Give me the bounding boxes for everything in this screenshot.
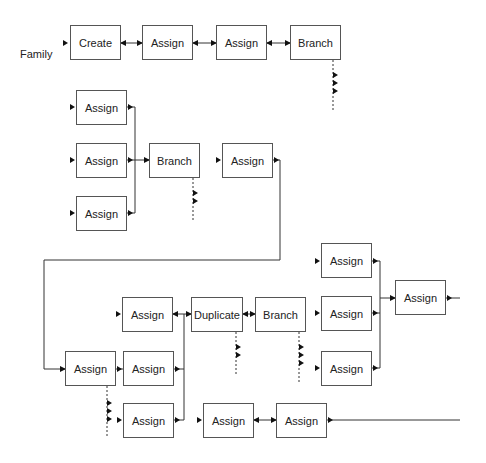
node-assign[interactable]: Assign (76, 143, 127, 178)
node-assign[interactable]: Assign (203, 403, 254, 438)
node-assign[interactable]: Assign (123, 403, 174, 438)
node-duplicate[interactable]: Duplicate (191, 297, 243, 332)
node-assign[interactable]: Assign (216, 25, 267, 60)
node-branch[interactable]: Branch (290, 25, 341, 60)
connector-lines (0, 0, 486, 463)
node-create[interactable]: Create (70, 25, 121, 60)
node-assign[interactable]: Assign (395, 280, 446, 315)
node-branch[interactable]: Branch (255, 297, 306, 332)
node-assign[interactable]: Assign (76, 90, 127, 125)
node-assign[interactable]: Assign (65, 351, 116, 386)
node-assign[interactable]: Assign (122, 297, 173, 332)
node-assign[interactable]: Assign (276, 403, 327, 438)
node-assign[interactable]: Assign (321, 351, 372, 386)
node-assign[interactable]: Assign (76, 196, 127, 231)
node-assign[interactable]: Assign (142, 25, 193, 60)
node-assign[interactable]: Assign (321, 243, 372, 278)
row-label: Family (20, 48, 52, 60)
node-branch[interactable]: Branch (149, 143, 200, 178)
node-assign[interactable]: Assign (321, 296, 372, 331)
node-assign[interactable]: Assign (222, 143, 273, 178)
node-assign[interactable]: Assign (123, 351, 174, 386)
